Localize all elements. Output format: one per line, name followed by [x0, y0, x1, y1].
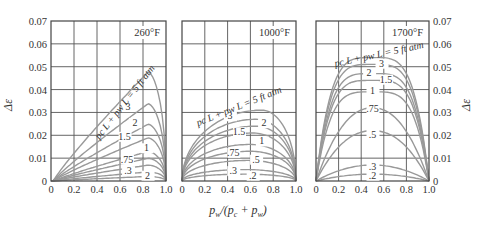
curve-label: 1.5: [380, 74, 393, 85]
y-tick: 0.01: [433, 153, 451, 164]
curve-label: 2: [132, 117, 137, 128]
y-tick: 0.01: [29, 153, 47, 164]
y-tick: 0.05: [433, 62, 451, 73]
panel-3: 321.51.75.5.3.2pc L + pw L = 5 ft atm170…: [313, 16, 452, 195]
y-tick: 0.04: [433, 85, 452, 96]
x-tick: 1.0: [289, 184, 302, 195]
y-tick: 0.06: [433, 39, 451, 50]
y-tick: 0.06: [29, 39, 47, 50]
chart-canvas: 321.51.75.32pc L + pw L = 5 ft atm260°F0…: [0, 0, 483, 229]
curve-label: 1: [259, 135, 264, 146]
x-tick: 0.8: [136, 184, 149, 195]
curve-label: .2: [369, 170, 377, 181]
y-tick: 0: [42, 176, 47, 187]
panels: 321.51.75.32pc L + pw L = 5 ft atm260°F0…: [29, 16, 453, 195]
y-axis-label-right: Δε: [459, 99, 473, 112]
x-tick: 0.4: [355, 184, 369, 195]
x-tick: 0.6: [244, 184, 257, 195]
curve-label: .75: [227, 147, 240, 158]
x-tick: 1.0: [159, 184, 172, 195]
y-tick: 0.02: [433, 130, 451, 141]
y-tick: 0.03: [29, 107, 47, 118]
y-axis-label-left: Δε: [1, 99, 15, 112]
curve-label: .75: [121, 154, 134, 165]
panel-title: 1000°F: [259, 27, 290, 38]
curve-label: 1.5: [233, 126, 246, 137]
curve-label: 2: [367, 67, 372, 78]
panel-title: 260°F: [134, 27, 160, 38]
curve-label: 1.5: [118, 131, 131, 142]
y-tick: 0.03: [433, 107, 451, 118]
y-tick: 0.02: [29, 130, 47, 141]
curve-label: .2: [249, 170, 257, 181]
x-tick: 0.8: [267, 184, 280, 195]
y-tick: 0.05: [29, 62, 47, 73]
curve-label: 1: [370, 85, 375, 96]
panel-title: 1700°F: [392, 27, 423, 38]
x-tick: 0.2: [67, 184, 80, 195]
curve-label: .5: [252, 154, 260, 165]
x-tick: 0.4: [221, 184, 235, 195]
curve-label: .3: [230, 165, 238, 176]
panel-2: 321.51.75.5.3.2pc L + pw L = 5 ft atm100…: [179, 21, 302, 195]
curve-label: 1: [144, 142, 149, 153]
x-tick: 0.4: [90, 184, 104, 195]
x-tick: 0.6: [113, 184, 126, 195]
x-tick: 0.2: [332, 184, 345, 195]
y-tick: 0.07: [29, 16, 47, 27]
x-tick: 0.6: [377, 184, 390, 195]
x-tick: 0.8: [400, 184, 413, 195]
y-tick: 0: [433, 176, 438, 187]
curve-label: 2: [262, 117, 267, 128]
x-tick: 0.2: [198, 184, 211, 195]
x-tick: 0: [313, 184, 318, 195]
panel-1: 321.51.75.32pc L + pw L = 5 ft atm260°F0…: [29, 16, 173, 195]
curve-label: 3: [379, 58, 384, 69]
curve-label: .75: [366, 103, 379, 114]
curve-label: 2: [145, 170, 150, 181]
y-tick: 0.07: [433, 16, 451, 27]
x-tick: 0: [48, 184, 53, 195]
curve-label: .3: [124, 165, 132, 176]
curve-label: .5: [369, 129, 377, 140]
x-axis-label: pw/(pc + pw): [208, 203, 267, 219]
x-tick: 0: [179, 184, 184, 195]
y-tick: 0.04: [29, 85, 48, 96]
